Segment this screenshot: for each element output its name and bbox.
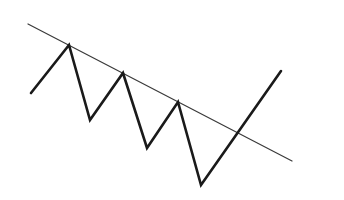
resistance-trendline: [28, 24, 292, 161]
price-zigzag-line: [31, 45, 281, 185]
trendline-breakout-diagram: [0, 0, 344, 200]
